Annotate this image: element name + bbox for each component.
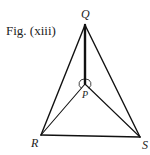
vertex-label-P: P xyxy=(81,89,88,100)
vertex-label-Q: Q xyxy=(81,7,90,21)
vertex-label-S: S xyxy=(142,138,148,152)
segment-PS xyxy=(85,84,140,137)
segment-PR xyxy=(41,84,85,135)
vertex-label-R: R xyxy=(30,136,39,150)
triangle-diagram: Q P R S xyxy=(0,0,150,155)
segment-RS xyxy=(41,135,140,137)
segment-QR xyxy=(41,25,85,135)
segment-QS xyxy=(85,25,140,137)
